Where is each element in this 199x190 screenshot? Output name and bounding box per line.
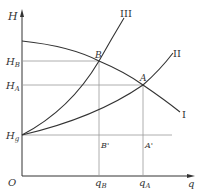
y-axis-arrow-icon [20, 9, 24, 17]
qb-label: qB [95, 177, 107, 190]
origin-label: O [8, 177, 16, 188]
y-axis-label: H [7, 10, 18, 23]
point-aprime-label: A' [144, 141, 153, 150]
hb-label: HB [5, 56, 20, 69]
x-axis-label: q [188, 178, 194, 189]
point-bprime-label: B' [100, 141, 109, 150]
point-b-label: B [94, 50, 102, 60]
point-a-label: A [139, 73, 147, 83]
curve-iii [22, 18, 124, 135]
qa-label: qA [139, 177, 150, 190]
ha-label: HA [5, 80, 20, 93]
curve-iii-label: III [120, 8, 132, 19]
curve-i-label: I [182, 109, 186, 120]
curve-ii [22, 53, 173, 135]
curve-ii-label: II [173, 48, 181, 59]
hg-label: Hg [5, 130, 20, 143]
characteristic-curves-diagram: H q O HB HA Hg qB qA B A B' A' I II III [0, 0, 199, 190]
